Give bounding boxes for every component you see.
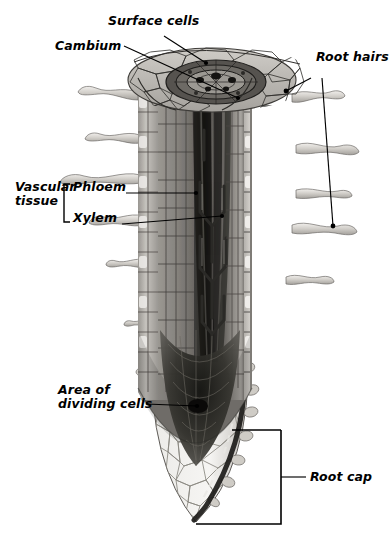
label-root-cap: Root cap xyxy=(310,470,372,484)
label-xylem: Xylem xyxy=(73,211,117,225)
label-phloem: Phloem xyxy=(73,180,126,194)
label-area-dividing-line1: Area of xyxy=(58,383,110,397)
label-area-dividing-line2: dividing cells xyxy=(58,397,152,411)
root-hairs-right xyxy=(286,91,359,285)
label-vascular-tissue-line1: Vascular xyxy=(15,180,76,194)
label-surface-cells: Surface cells xyxy=(108,14,199,28)
vascular-cylinder-top xyxy=(166,60,266,104)
label-vascular-tissue-line2: tissue xyxy=(15,194,58,208)
label-cambium: Cambium xyxy=(55,39,122,53)
label-root-hairs: Root hairs xyxy=(316,50,389,64)
